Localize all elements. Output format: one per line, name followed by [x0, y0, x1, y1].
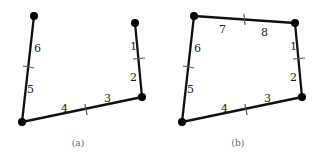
edge-label: 2 — [290, 71, 297, 84]
edge-label: 7 — [219, 23, 226, 36]
vertex — [18, 118, 26, 126]
closed-polygon-b — [182, 16, 302, 122]
tick-mark — [133, 58, 145, 59]
panel-a: 1 2 3 4 5 6 (a) — [18, 12, 146, 148]
panel-caption: (a) — [72, 138, 84, 148]
vertex — [131, 19, 139, 27]
edge-label: 1 — [290, 40, 297, 53]
vertex — [30, 12, 38, 20]
vertex — [138, 93, 146, 101]
edge-label: 4 — [221, 102, 228, 115]
edge-label: 5 — [27, 83, 34, 96]
vertex — [190, 12, 198, 20]
edge-label: 2 — [130, 71, 137, 84]
edge-label: 3 — [264, 92, 271, 105]
vertex — [178, 118, 186, 126]
edge-label: 8 — [261, 26, 268, 39]
diagram-canvas: 1 2 3 4 5 6 (a) 1 2 3 4 5 6 7 8 (b) — [0, 0, 320, 155]
edge-label: 6 — [194, 42, 201, 55]
edge-label: 5 — [187, 83, 194, 96]
edge-label: 6 — [34, 42, 41, 55]
edge-label: 4 — [61, 102, 68, 115]
vertex — [291, 19, 299, 27]
panel-caption: (b) — [232, 138, 245, 148]
vertex — [298, 93, 306, 101]
panel-b: 1 2 3 4 5 6 7 8 (b) — [178, 12, 306, 148]
tick-mark — [244, 14, 245, 25]
open-path-a — [22, 16, 142, 122]
tick-mark — [293, 58, 305, 59]
edge-label: 1 — [130, 40, 137, 53]
edge-label: 3 — [104, 92, 111, 105]
